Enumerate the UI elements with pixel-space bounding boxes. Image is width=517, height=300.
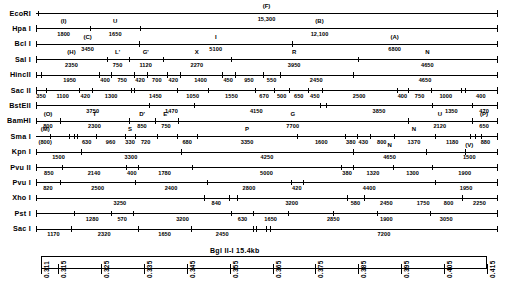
restriction-site-tick xyxy=(303,180,304,186)
restriction-site-tick xyxy=(274,88,275,94)
fragment-size: 7200 xyxy=(366,232,402,238)
fragment-size: 2450 xyxy=(368,201,404,207)
fragment-size: 650 xyxy=(466,124,502,130)
restriction-site-tick xyxy=(131,88,132,94)
restriction-site-tick xyxy=(46,88,47,94)
fragment-size: 5000 xyxy=(249,171,285,177)
axis-endcap xyxy=(497,10,498,17)
restriction-site-tick xyxy=(138,226,139,232)
restriction-site-tick xyxy=(157,134,158,140)
restriction-site-tick xyxy=(69,134,70,140)
enzyme-label: Bcl I xyxy=(0,40,31,47)
ruler-tick-label: 0.395 xyxy=(404,261,410,279)
fragment-name: (O) xyxy=(30,111,66,117)
restriction-site-tick xyxy=(60,118,61,124)
fragment-size: (800) xyxy=(27,140,63,146)
fragment-name: (C) xyxy=(70,34,106,40)
axis-endcap xyxy=(36,56,37,63)
fragment-size: 720 xyxy=(128,140,164,146)
restriction-site-tick xyxy=(92,88,93,94)
fragment-size: 1000 xyxy=(428,94,464,100)
axis-line xyxy=(36,121,497,122)
axis-endcap xyxy=(497,41,498,48)
enzyme-label: HincII xyxy=(0,71,31,78)
restriction-site-tick xyxy=(288,211,289,217)
restriction-site-tick xyxy=(207,180,208,186)
enzyme-label: EcoRI xyxy=(0,10,31,17)
axis-endcap xyxy=(36,102,37,109)
fragment-name: X xyxy=(179,49,215,55)
restriction-site-tick xyxy=(270,226,271,232)
fragment-size: 2270 xyxy=(179,63,215,69)
restriction-site-tick xyxy=(147,72,148,78)
fragment-name: P xyxy=(229,126,265,132)
restriction-site-tick xyxy=(308,88,309,94)
restriction-site-tick xyxy=(461,88,462,94)
ruler-tick xyxy=(444,264,445,274)
restriction-site-tick xyxy=(292,41,293,47)
restriction-site-tick xyxy=(370,134,371,140)
restriction-site-tick xyxy=(60,180,61,186)
enzyme-label: Sac I xyxy=(0,225,31,232)
fragment-size: 3950 xyxy=(276,63,312,69)
restriction-site-tick xyxy=(266,226,267,232)
restriction-site-tick xyxy=(432,103,433,109)
fragment-size: 3300 xyxy=(113,155,149,161)
ruler-tick-label: 0.345 xyxy=(190,261,196,279)
axis-endcap xyxy=(36,210,37,217)
restriction-site-tick xyxy=(465,88,466,94)
restriction-site-tick xyxy=(192,165,193,171)
restriction-site-tick xyxy=(475,134,476,140)
restriction-site-tick xyxy=(320,103,321,109)
axis-endcap xyxy=(497,164,498,171)
restriction-site-tick xyxy=(472,103,473,109)
fragment-size: 1950 xyxy=(448,186,484,192)
restriction-site-tick xyxy=(111,211,112,217)
restriction-site-tick xyxy=(74,134,75,140)
fragment-name: R xyxy=(276,49,312,55)
fragment-size: 3050 xyxy=(428,217,464,223)
fragment-name: (B) xyxy=(302,18,338,24)
enzyme-label: BstEII xyxy=(0,102,31,109)
restriction-site-tick xyxy=(178,118,179,124)
fragment-size: 4400 xyxy=(351,186,387,192)
fragment-size: 3350 xyxy=(229,140,265,146)
fragment-name: (A) xyxy=(377,34,413,40)
ruler-tick xyxy=(58,264,59,274)
axis-line xyxy=(36,105,497,106)
restriction-site-tick xyxy=(134,88,135,94)
enzyme-label: Pvu I xyxy=(0,179,31,186)
restriction-site-tick xyxy=(62,165,63,171)
fragment-size: 1320 xyxy=(355,171,391,177)
restriction-site-tick xyxy=(229,195,230,201)
fragment-size: 2450 xyxy=(204,232,240,238)
restriction-site-tick xyxy=(377,211,378,217)
fragment-name: N xyxy=(372,142,408,148)
fragment-size: 2400 xyxy=(153,186,189,192)
fragment-size: 680 xyxy=(169,140,205,146)
restriction-site-tick xyxy=(177,88,178,94)
fragment-size: 15,300 xyxy=(249,17,285,23)
enzyme-label: BamHI xyxy=(0,117,31,124)
fragment-name: (V) xyxy=(451,142,487,148)
axis-endcap xyxy=(497,72,498,79)
axis-endcap xyxy=(497,149,498,156)
fragment-name: (F) xyxy=(249,3,285,9)
restriction-site-tick xyxy=(177,134,178,140)
fragment-size: 450 xyxy=(297,94,333,100)
fragment-size: 550 xyxy=(254,78,290,84)
restriction-site-tick xyxy=(71,226,72,232)
fragment-size: 4650 xyxy=(407,78,443,84)
axis-endcap xyxy=(497,179,498,186)
restriction-site-tick xyxy=(431,88,432,94)
restriction-site-tick xyxy=(208,88,209,94)
restriction-site-tick xyxy=(149,103,150,109)
restriction-site-tick xyxy=(77,134,78,140)
axis-endcap xyxy=(36,195,37,202)
restriction-site-tick xyxy=(253,211,254,217)
fragment-name: U xyxy=(97,18,133,24)
fragment-size: 4250 xyxy=(249,155,285,161)
fragment-size: 1170 xyxy=(36,232,72,238)
fragment-size: 2500 xyxy=(80,186,116,192)
fragment-size: 4650 xyxy=(372,155,408,161)
